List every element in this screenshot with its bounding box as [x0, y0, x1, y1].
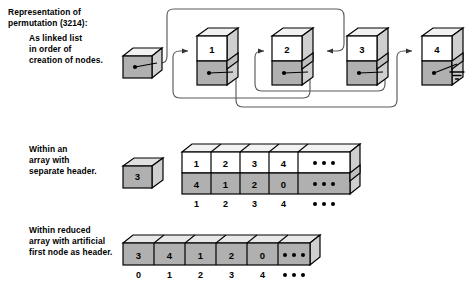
array-index-0: 1: [194, 199, 199, 209]
reduced-index-4: 4: [260, 270, 265, 280]
array-top-cell-2: 3: [252, 158, 257, 169]
reduced-index-5-ellipsis: [283, 273, 305, 277]
linked-list-header-node: [123, 48, 162, 78]
array-header-cube: 3: [123, 158, 163, 188]
array-index-2: 3: [252, 199, 257, 209]
array-bottom-cell-4-ellipsis: [313, 182, 335, 186]
linked-list-node-4: 4: [422, 28, 463, 85]
array-bottom-cell-1: 1: [223, 179, 229, 190]
reduced-index-1: 1: [167, 270, 172, 280]
reduced-array-index-labels: 0 1 2 3 4: [136, 270, 305, 280]
array-top-cell-1: 2: [223, 158, 228, 169]
reduced-cell-4: 0: [260, 250, 265, 261]
reduced-index-2: 2: [198, 270, 203, 280]
array-top-cell-3: 4: [281, 158, 287, 169]
array-top-cell-0: 1: [194, 158, 200, 169]
array-with-header-index-labels: 1 2 3 4: [194, 199, 335, 209]
node-key-2: 2: [284, 44, 289, 55]
linked-list-node-2: 2: [272, 28, 313, 85]
array-top-cell-4-ellipsis: [313, 161, 335, 165]
link-header-to-3: [153, 9, 344, 63]
reduced-cell-1: 4: [167, 250, 173, 261]
reduced-array-block: 3 4 1 2 0: [123, 235, 320, 265]
linked-list-node-3: 3: [347, 28, 388, 85]
array-bottom-cell-2: 2: [252, 179, 257, 190]
array-index-4-ellipsis: [313, 202, 335, 206]
node-key-3: 3: [359, 44, 364, 55]
array-bottom-cell-3: 0: [281, 179, 286, 190]
linked-list-node-1: 1: [197, 28, 238, 85]
array-index-3: 4: [281, 199, 286, 209]
reduced-index-3: 3: [229, 270, 234, 280]
reduced-index-0: 0: [136, 270, 141, 280]
node-key-4: 4: [434, 44, 440, 55]
node-key-1: 1: [209, 44, 215, 55]
array-with-header-block: 1 2 3 4 4 1 2 0: [182, 144, 360, 194]
reduced-cell-5-ellipsis: [283, 253, 305, 257]
diagram-graphics: 1 2 3: [0, 0, 472, 283]
reduced-cell-3: 2: [229, 250, 234, 261]
diagram-canvas: Representation of permutation (3214): As…: [0, 0, 472, 283]
array-header-value: 3: [135, 171, 140, 182]
reduced-cell-0: 3: [136, 250, 141, 261]
array-bottom-cell-0: 4: [194, 179, 200, 190]
reduced-cell-2: 1: [198, 250, 204, 261]
array-index-1: 2: [223, 199, 228, 209]
